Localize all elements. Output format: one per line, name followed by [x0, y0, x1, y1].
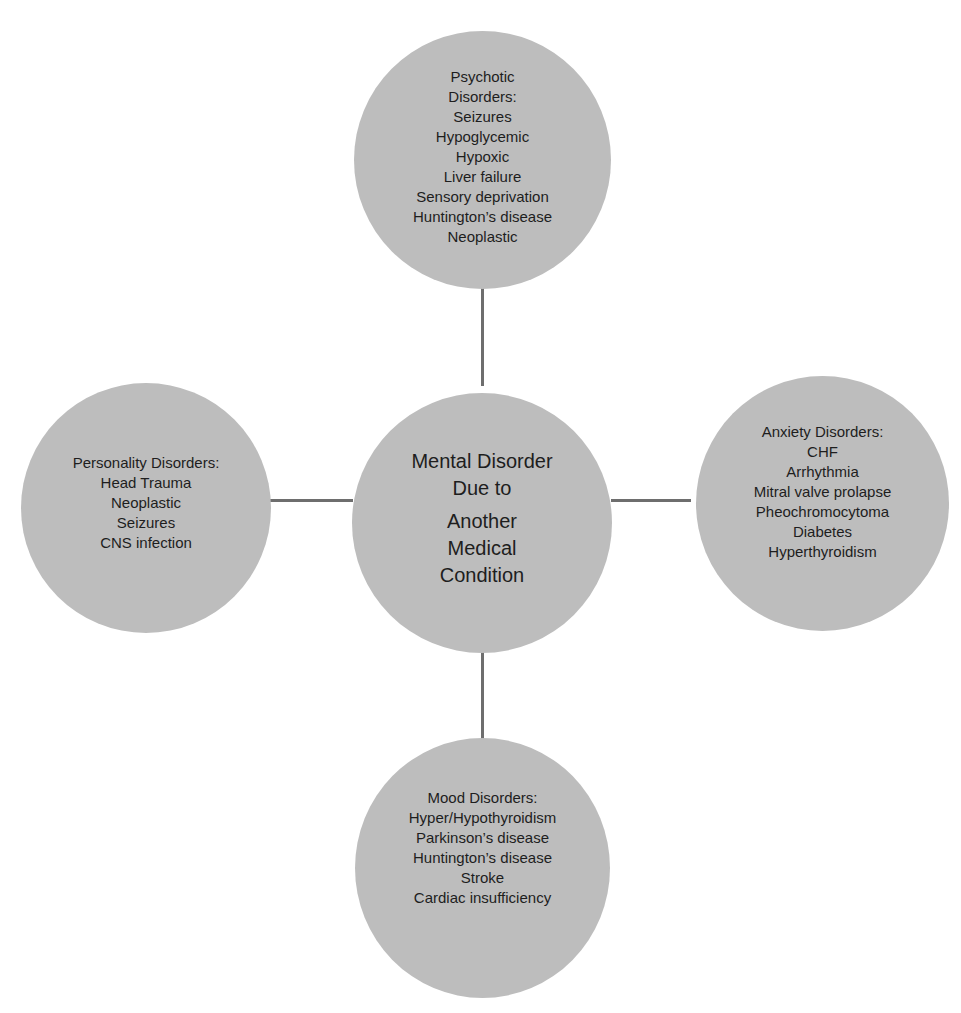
node-item: Seizures: [453, 107, 511, 127]
center-title: Medical: [448, 535, 517, 562]
node-center-mental-disorder: Mental Disorder Due to Another Medical C…: [352, 393, 612, 653]
node-item: Sensory deprivation: [416, 187, 549, 207]
node-item: Neoplastic: [447, 227, 517, 247]
node-title: Mood Disorders:: [427, 788, 537, 808]
connector-bottom: [481, 651, 484, 739]
node-title: Personality Disorders:: [73, 453, 220, 473]
node-anxiety-disorders: Anxiety Disorders: CHF Arrhythmia Mitral…: [696, 376, 949, 631]
node-item: Arrhythmia: [786, 462, 859, 482]
node-item: Mitral valve prolapse: [754, 482, 892, 502]
node-item: Seizures: [117, 513, 175, 533]
node-item: Huntington’s disease: [413, 207, 552, 227]
connector-top: [481, 288, 484, 386]
node-personality-disorders: Personality Disorders: Head Trauma Neopl…: [21, 383, 271, 633]
node-item: Hyperthyroidism: [768, 542, 876, 562]
connector-right: [611, 499, 691, 502]
center-title: Mental Disorder: [411, 448, 552, 475]
node-psychotic-disorders: Psychotic Disorders: Seizures Hypoglycem…: [354, 31, 611, 289]
node-item: Liver failure: [444, 167, 522, 187]
node-item: Hypoglycemic: [436, 127, 529, 147]
center-title: Due to: [453, 475, 512, 502]
node-item: Diabetes: [793, 522, 852, 542]
node-item: Cardiac insufficiency: [414, 888, 551, 908]
node-item: Hypoxic: [456, 147, 509, 167]
node-title: Disorders:: [448, 87, 516, 107]
node-title: Psychotic: [450, 67, 514, 87]
connector-left: [269, 499, 353, 502]
node-item: Pheochromocytoma: [756, 502, 889, 522]
center-title: Another: [447, 508, 517, 535]
node-item: Neoplastic: [111, 493, 181, 513]
node-item: Huntington’s disease: [413, 848, 552, 868]
center-title: Condition: [440, 562, 525, 589]
node-item: CHF: [807, 442, 838, 462]
node-item: Head Trauma: [101, 473, 192, 493]
node-item: Hyper/Hypothyroidism: [409, 808, 557, 828]
node-item: Stroke: [461, 868, 504, 888]
node-title: Anxiety Disorders:: [762, 422, 884, 442]
node-item: Parkinson’s disease: [416, 828, 549, 848]
node-mood-disorders: Mood Disorders: Hyper/Hypothyroidism Par…: [355, 738, 610, 998]
node-item: CNS infection: [100, 533, 192, 553]
